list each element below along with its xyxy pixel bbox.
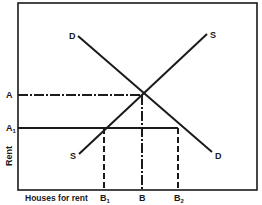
demand-label-top: D	[69, 31, 76, 41]
supply-label-bottom: S	[70, 151, 76, 161]
y-tick-a1: A1	[6, 123, 17, 134]
supply-label-top: S	[210, 30, 216, 40]
plot-frame	[18, 3, 257, 190]
y-axis-label: Rent	[4, 146, 14, 166]
x-axis-label: Houses for rent	[25, 193, 88, 203]
y-tick-a: A	[6, 90, 13, 100]
x-tick-b: B	[139, 193, 146, 203]
supply-demand-diagram: D D S S A A1 Rent Houses for rent B1 B B…	[0, 0, 262, 205]
x-tick-b1: B1	[100, 193, 111, 204]
demand-label-bottom: D	[215, 151, 222, 161]
x-tick-b2: B2	[174, 193, 185, 204]
